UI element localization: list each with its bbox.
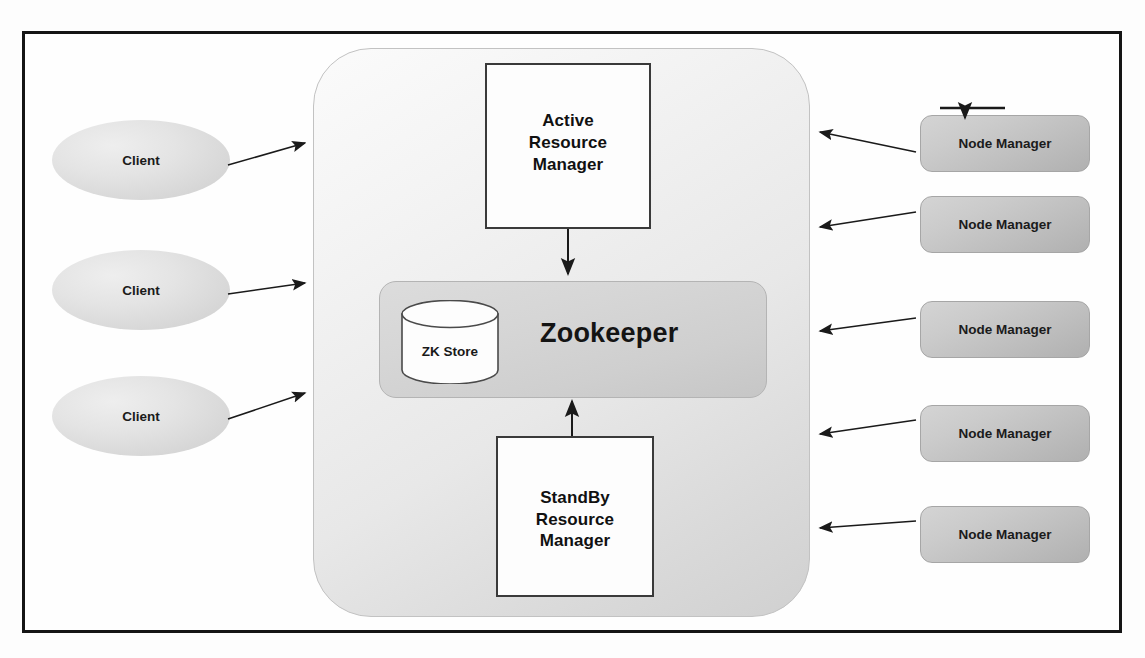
client-label-1: Client: [122, 153, 160, 168]
arm-line-1: Active: [542, 111, 594, 130]
node-manager-label-5: Node Manager: [958, 527, 1051, 542]
node-manager-label-3: Node Manager: [958, 322, 1051, 337]
arm-line-2: Resource: [529, 133, 607, 152]
client-node-1[interactable]: Client: [52, 120, 230, 200]
node-manager-4[interactable]: Node Manager: [920, 405, 1090, 462]
zk-store-cylinder: ZK Store: [400, 300, 500, 384]
sbrm-line-3: Manager: [540, 531, 611, 550]
active-resource-manager-box[interactable]: Active Resource Manager: [485, 63, 651, 229]
zookeeper-label: Zookeeper: [540, 318, 678, 349]
zk-store-label: ZK Store: [400, 344, 500, 359]
standby-resource-manager-box[interactable]: StandBy Resource Manager: [496, 436, 654, 597]
client-node-3[interactable]: Client: [52, 376, 230, 456]
sbrm-line-1: StandBy: [540, 488, 610, 507]
node-manager-5[interactable]: Node Manager: [920, 506, 1090, 563]
node-manager-1[interactable]: Node Manager: [920, 115, 1090, 172]
diagram-canvas: Client Client Client Active Resource Man…: [0, 0, 1145, 658]
node-manager-label-4: Node Manager: [958, 426, 1051, 441]
zk-store-cylinder-shape: [400, 300, 500, 384]
client-node-2[interactable]: Client: [52, 250, 230, 330]
zookeeper-panel[interactable]: ZK Store Zookeeper: [379, 281, 767, 398]
client-label-2: Client: [122, 283, 160, 298]
node-manager-label-2: Node Manager: [958, 217, 1051, 232]
standby-resource-manager-label: StandBy Resource Manager: [536, 487, 614, 552]
node-manager-label-1: Node Manager: [958, 136, 1051, 151]
arm-line-3: Manager: [533, 155, 604, 174]
client-label-3: Client: [122, 409, 160, 424]
active-resource-manager-label: Active Resource Manager: [529, 110, 607, 175]
sbrm-line-2: Resource: [536, 510, 614, 529]
node-manager-2[interactable]: Node Manager: [920, 196, 1090, 253]
node-manager-3[interactable]: Node Manager: [920, 301, 1090, 358]
